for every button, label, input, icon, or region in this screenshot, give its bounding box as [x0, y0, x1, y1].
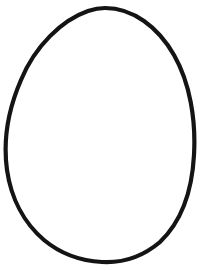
drawing-canvas: Egg Outline Coloring Page [0, 0, 207, 271]
egg-illustration [0, 0, 207, 271]
